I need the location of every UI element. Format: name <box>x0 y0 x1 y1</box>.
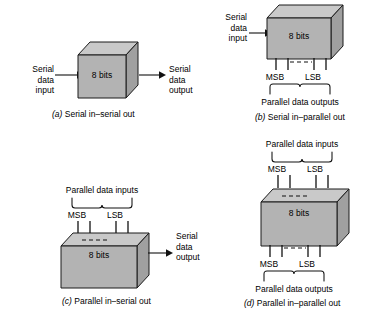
panel-c-lsb-label: LSB <box>96 210 134 221</box>
panel-b-msb-label: MSB <box>256 72 294 83</box>
panel-d-output-brace <box>262 270 326 282</box>
panel-d-caption-letter: (d) <box>244 298 254 308</box>
panel-d-output-pins <box>260 245 328 259</box>
panel-c-box-label: 8 bits <box>61 250 137 260</box>
panel-c-caption: (c) Parallel in–serial out <box>62 296 151 306</box>
panel-a-output-label: Serial data output <box>169 64 219 96</box>
panel-c-output-label: Serial data output <box>176 231 226 263</box>
panel-a-register-box <box>77 38 139 100</box>
panel-d-box-label: 8 bits <box>261 208 337 218</box>
panel-d-output-bracket-label: Parallel data outputs <box>244 284 344 295</box>
panel-b-lsb-label: LSB <box>294 72 332 83</box>
panel-d-top-msb-label: MSB <box>258 164 296 175</box>
panel-a-caption-letter: (a) <box>52 109 62 119</box>
panel-a-caption-text: Serial in–serial out <box>65 109 135 119</box>
panel-b-output-pins <box>266 58 334 72</box>
panel-a-output-arrow <box>139 70 167 80</box>
panel-d-input-bracket-label: Parallel data inputs <box>248 139 356 150</box>
panel-c-msb-label: MSB <box>58 210 96 221</box>
panel-d-caption-text: Parallel in–parallel out <box>257 298 341 308</box>
panel-c-caption-text: Parallel in–serial out <box>74 296 151 306</box>
panel-c-input-brace <box>70 197 134 209</box>
panel-b-caption-letter: (b) <box>255 112 265 122</box>
panel-b-bracket-label: Parallel data outputs <box>250 97 350 108</box>
panel-a-caption: (a) Serial in–serial out <box>52 109 135 119</box>
panel-a-input-label: Serial data input <box>8 64 54 96</box>
panel-b-box-label: 8 bits <box>267 31 331 41</box>
panel-d-input-brace <box>270 151 334 163</box>
panel-b-input-label: Serial data input <box>201 12 247 44</box>
panel-c-output-arrow <box>148 248 174 258</box>
panel-d-top-lsb-label: LSB <box>296 164 334 175</box>
panel-b-output-brace <box>268 83 332 95</box>
panel-c-bracket-label: Parallel data inputs <box>48 185 156 196</box>
panel-d-bottom-msb-label: MSB <box>250 259 288 270</box>
panel-b-caption-text: Serial in–parallel out <box>268 112 345 122</box>
panel-c-caption-letter: (c) <box>62 296 72 306</box>
panel-b-caption: (b) Serial in–parallel out <box>255 112 345 122</box>
panel-d-bottom-lsb-label: LSB <box>288 259 326 270</box>
panel-d-caption: (d) Parallel in–parallel out <box>244 298 340 308</box>
panel-a-box-label: 8 bits <box>78 70 126 80</box>
